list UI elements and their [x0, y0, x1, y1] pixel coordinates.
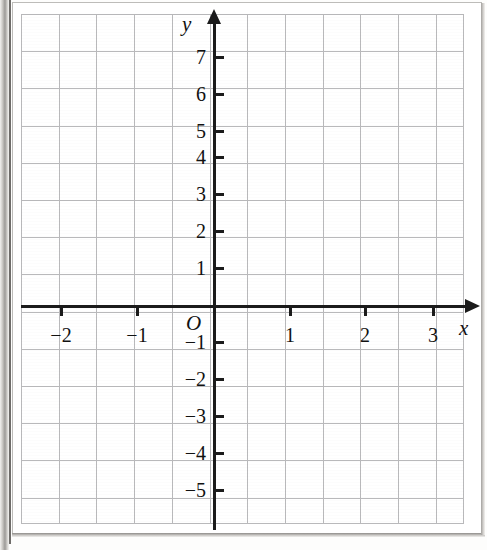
x-axis-tick-mark — [364, 308, 367, 316]
y-axis-tick-mark — [216, 130, 224, 133]
y-axis-tick-label: −2 — [166, 369, 206, 389]
x-axis-tick-label: 2 — [345, 325, 385, 345]
page-bottom-shadow — [12, 533, 485, 537]
y-axis-tick-label: 3 — [166, 184, 206, 204]
y-axis-label: y — [182, 14, 191, 35]
origin-label: O — [186, 313, 201, 334]
y-axis-tick-mark — [216, 156, 224, 159]
y-axis-tick-label: 4 — [166, 147, 206, 167]
y-axis-tick-mark — [216, 452, 224, 455]
y-axis-tick-mark — [216, 415, 224, 418]
y-axis-tick-mark — [216, 93, 224, 96]
page-right-shadow — [481, 3, 485, 535]
x-axis-tick-mark — [60, 308, 63, 316]
x-axis-tick-label: 1 — [270, 325, 310, 345]
y-axis-tick-label: −3 — [166, 406, 206, 426]
y-axis-tick-label: 1 — [166, 258, 206, 278]
x-axis-tick-label: 3 — [413, 325, 453, 345]
y-axis-tick-mark — [216, 489, 224, 492]
y-axis-tick-mark — [216, 56, 224, 59]
book-spine-gutter — [0, 0, 9, 550]
x-axis-label: x — [459, 318, 468, 339]
y-axis-tick-mark — [216, 267, 224, 270]
y-axis-tick-label: 6 — [166, 84, 206, 104]
y-axis-tick-label: 2 — [166, 221, 206, 241]
y-axis-tick-mark — [216, 230, 224, 233]
y-axis-tick-mark — [216, 193, 224, 196]
y-axis-tick-label: 5 — [166, 121, 206, 141]
coordinate-grid — [21, 14, 464, 524]
page-edge-line — [9, 0, 11, 544]
y-axis-arrow-icon — [207, 9, 221, 24]
y-axis-tick-label: −4 — [166, 443, 206, 463]
x-axis-arrow-icon — [465, 299, 480, 313]
x-axis-line — [21, 305, 473, 308]
y-axis-tick-label: −5 — [166, 480, 206, 500]
y-axis-tick-label: −1 — [166, 332, 206, 352]
y-axis-tick-mark — [216, 341, 224, 344]
y-axis-tick-mark — [216, 378, 224, 381]
x-axis-tick-label: −1 — [117, 325, 157, 345]
x-axis-tick-mark — [289, 308, 292, 316]
x-axis-tick-mark — [432, 308, 435, 316]
x-axis-tick-label: −2 — [41, 325, 81, 345]
scanned-page: 7654321−1−2−3−4−5−2−1123 y x O — [0, 0, 487, 550]
x-axis-tick-mark — [136, 308, 139, 316]
y-axis-tick-label: 7 — [166, 47, 206, 67]
